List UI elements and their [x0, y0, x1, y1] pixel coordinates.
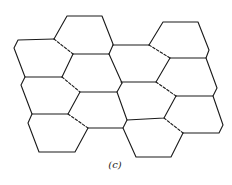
cell-edge	[109, 54, 122, 83]
cell-edge	[62, 54, 73, 77]
figure-caption: (c)	[0, 159, 231, 170]
cell-edge	[14, 39, 62, 77]
cell-edge	[123, 120, 183, 157]
cell-edge	[121, 58, 170, 82]
cell-edge	[183, 96, 223, 133]
dashed-edge	[54, 39, 73, 54]
hexagonal-tiling-diagram	[0, 0, 232, 185]
cell-edge	[117, 92, 176, 120]
cell-edge	[21, 77, 122, 114]
tiling-solid-edges	[14, 16, 223, 157]
cell-edge	[54, 16, 113, 45]
cell-edge	[149, 22, 209, 58]
dashed-edge	[149, 45, 170, 58]
dashed-edge	[62, 77, 80, 92]
dashed-edge	[156, 82, 176, 96]
cell-edge	[109, 45, 113, 54]
cell-edge	[176, 58, 217, 96]
dashed-edge	[68, 114, 88, 128]
tiling-dashed-edges	[54, 39, 183, 133]
dashed-edge	[164, 118, 183, 133]
